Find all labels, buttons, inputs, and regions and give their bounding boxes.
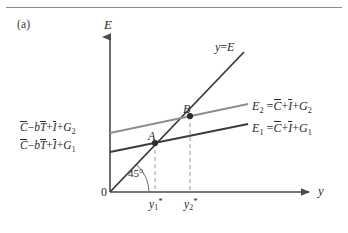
plot-canvas bbox=[0, 0, 348, 233]
E1-term-G: G bbox=[299, 121, 308, 135]
E1-term-C: C bbox=[273, 122, 281, 134]
line-label-E2: E2 =C+I+G2 bbox=[252, 100, 312, 115]
E2-op2: + bbox=[292, 99, 299, 113]
point-B-label: B bbox=[183, 103, 190, 115]
E2-lhs-sub: 2 bbox=[259, 106, 263, 115]
int2-G-sub: 2 bbox=[71, 127, 75, 136]
line-label-E1: E1 =C+I+G1 bbox=[252, 122, 312, 137]
E1-lhs-sub: 1 bbox=[259, 128, 263, 137]
E2-term-G-sub: 2 bbox=[308, 106, 312, 115]
E2-term-C: C bbox=[273, 100, 281, 112]
int2-C: C bbox=[20, 122, 28, 134]
tick-label-y2: y2* bbox=[184, 197, 198, 212]
int1-T: T bbox=[40, 140, 46, 152]
E2-term-G: G bbox=[299, 99, 308, 113]
int2-I: I bbox=[53, 122, 57, 134]
int2-T: T bbox=[40, 122, 46, 134]
yeqE-rhs: E bbox=[227, 40, 234, 54]
E2-term-I: I bbox=[288, 100, 292, 112]
E1-eq: = bbox=[267, 121, 274, 135]
angle-label: 45° bbox=[128, 168, 143, 179]
E1-term-G-sub: 1 bbox=[308, 128, 312, 137]
line-label-y-equals-E: y=E bbox=[215, 41, 234, 53]
x-axis-label: y bbox=[318, 184, 324, 197]
E2-eq: = bbox=[267, 99, 274, 113]
int1-C: C bbox=[20, 140, 28, 152]
E1-term-I: I bbox=[288, 122, 292, 134]
figure-panel-a: (a) E y y=E bbox=[0, 0, 348, 233]
y1-star: * bbox=[158, 196, 162, 206]
point-A-label: A bbox=[148, 130, 155, 142]
tick-label-y1: y1* bbox=[149, 197, 163, 212]
int1-G-sub: 1 bbox=[71, 145, 75, 154]
int1-I: I bbox=[53, 140, 57, 152]
origin-label: 0 bbox=[101, 186, 107, 198]
y2-star: * bbox=[193, 196, 197, 206]
intercept-label-1: C−bT+I+G1 bbox=[20, 140, 76, 153]
E1-op2: + bbox=[292, 121, 299, 135]
intercept-label-2: C−bT+I+G2 bbox=[20, 122, 76, 135]
y-axis-label: E bbox=[104, 18, 112, 31]
